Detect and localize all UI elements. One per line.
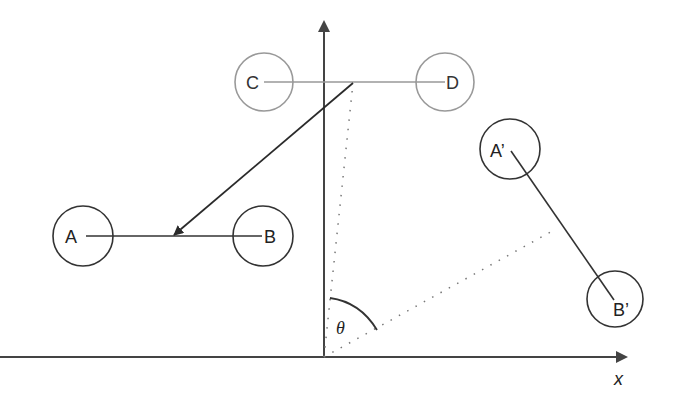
- translation-arrow: [174, 83, 353, 235]
- x-axis-label: x: [613, 369, 624, 389]
- rotation-diagram: θ C D A B A’ B’ x: [0, 0, 673, 405]
- label-a: A: [65, 227, 77, 247]
- label-b-prime: B’: [613, 300, 629, 320]
- label-b: B: [264, 227, 276, 247]
- dotted-line-vertical: [324, 83, 353, 357]
- dotted-line-rotated: [324, 229, 556, 357]
- label-d: D: [446, 73, 459, 93]
- theta-label: θ: [336, 318, 345, 338]
- edge-a-prime-b-prime: [511, 151, 614, 300]
- label-a-prime: A’: [490, 141, 505, 161]
- label-c: C: [246, 73, 259, 93]
- node-a-prime: [480, 119, 540, 179]
